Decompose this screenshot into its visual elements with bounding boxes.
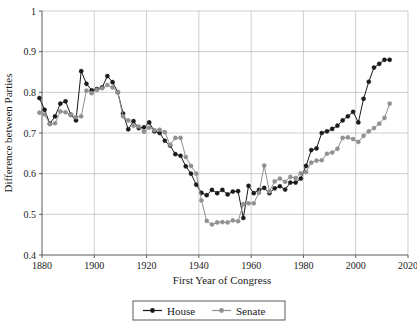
data-point-marker [126,127,130,131]
data-point-marker [53,121,57,125]
data-point-marker [231,189,235,193]
data-point-marker [320,158,324,162]
data-point-marker [330,127,334,131]
data-point-marker [121,114,125,118]
data-point-marker [236,219,240,223]
data-point-marker [351,110,355,114]
data-point-marker [335,124,339,128]
data-point-marker [220,220,224,224]
data-point-marker [388,102,392,106]
x-tick-label: 1980 [293,260,313,271]
chart-legend: HouseSenate [133,301,285,320]
y-axis-title: Difference between Parties [2,74,14,193]
data-point-marker [283,180,287,184]
data-point-marker [79,114,83,118]
data-point-marker [325,152,329,156]
data-point-marker [53,114,57,118]
data-point-marker [335,147,339,151]
data-point-marker [74,115,78,119]
data-point-marker [293,176,297,180]
data-point-marker [184,164,188,168]
data-point-marker [351,137,355,141]
x-tick-label: 2000 [346,260,366,271]
data-point-marker [304,170,308,174]
series-line [39,85,389,224]
data-point-marker [43,108,47,112]
data-point-marker [63,99,67,103]
data-point-marker [283,187,287,191]
line-chart: 0.40.50.60.70.80.91 18801900192019401960… [0,0,417,326]
chart-figure: 0.40.50.60.70.80.91 18801900192019401960… [0,0,417,326]
y-tick-label: 0.4 [24,250,37,261]
y-tick-label: 0.7 [24,128,37,139]
data-point-marker [288,175,292,179]
data-point-marker [226,192,230,196]
y-axis-tick-labels: 0.40.50.60.70.80.91 [24,6,37,261]
data-point-marker [95,88,99,92]
data-point-marker [231,218,235,222]
data-point-marker [199,198,203,202]
data-point-marker [377,62,381,66]
data-point-marker [377,122,381,126]
data-point-marker [262,163,266,167]
data-point-marker [142,125,146,129]
data-point-marker [388,58,392,62]
data-point-marker [173,152,177,156]
legend-marker-icon [150,308,155,313]
x-axis-title: First Year of Congress [173,274,271,286]
data-point-marker [325,129,329,133]
data-point-marker [69,113,73,117]
data-point-marker [346,114,350,118]
data-point-marker [147,126,151,130]
grid-lines [42,11,408,255]
data-point-marker [210,222,214,226]
data-point-marker [116,90,120,94]
data-point-marker [320,131,324,135]
data-point-marker [372,126,376,130]
data-point-marker [184,155,188,159]
data-point-marker [48,122,52,126]
data-point-marker [173,136,177,140]
data-point-marker [257,191,261,195]
series-line [39,60,389,218]
data-point-marker [309,148,313,152]
data-point-marker [356,120,360,124]
data-point-marker [293,181,297,185]
x-tick-label: 1900 [84,260,104,271]
data-point-marker [314,159,318,163]
x-tick-label: 1920 [137,260,157,271]
data-point-marker [58,102,62,106]
data-point-marker [152,128,156,132]
data-point-marker [236,189,240,193]
data-point-marker [246,184,250,188]
data-point-marker [142,130,146,134]
series-senate [37,83,392,227]
legend-marker-icon [219,308,224,313]
data-point-marker [304,164,308,168]
data-point-marker [205,219,209,223]
data-point-marker [178,136,182,140]
data-point-marker [194,172,198,176]
data-point-marker [299,176,303,180]
data-point-marker [105,83,109,87]
data-point-marker [278,176,282,180]
data-point-marker [63,110,67,114]
data-point-marker [309,161,313,165]
y-tick-label: 0.6 [24,168,37,179]
data-point-marker [367,80,371,84]
data-point-marker [147,120,151,124]
data-point-marker [58,109,62,113]
y-tick-label: 0.8 [24,87,37,98]
data-point-marker [189,172,193,176]
data-point-marker [273,179,277,183]
legend-label: House [167,305,195,317]
data-point-marker [241,216,245,220]
data-point-marker [37,111,41,115]
x-tick-label: 1960 [241,260,261,271]
data-point-marker [163,130,167,134]
data-point-marker [43,112,47,116]
data-point-marker [105,74,109,78]
data-point-marker [273,186,277,190]
data-point-marker [84,89,88,93]
y-tick-label: 0.9 [24,46,37,57]
